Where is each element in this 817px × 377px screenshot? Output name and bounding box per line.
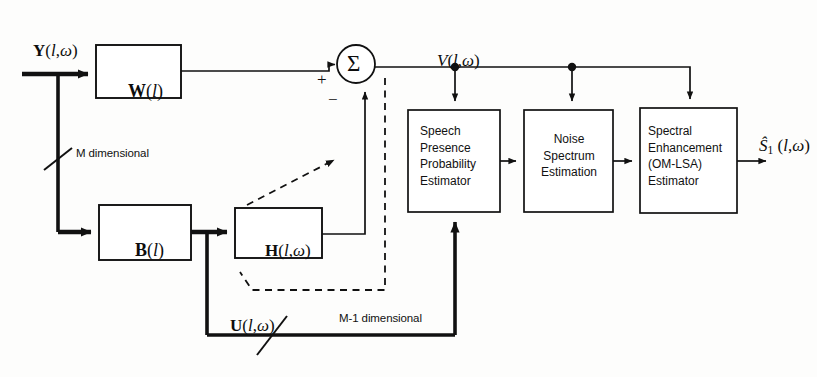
plus-sign-label: + — [317, 70, 327, 90]
path-dashed-h-to-sum-control — [247, 160, 334, 205]
path-w-to-sum — [181, 65, 335, 72]
summation-symbol: Σ — [347, 51, 360, 77]
block-label-speech-presence-probability-estimator: SpeechPresenceProbabilityEstimator — [420, 123, 506, 189]
label-final-output-signal: Ŝ1 (l,ω) — [742, 116, 810, 177]
label-input-signal: Y(l,ω) — [16, 21, 78, 81]
label-blocking-matrix-output: U(l,ω) — [213, 296, 275, 356]
block-label-spectral-enhancement-estimator: SpectralEnhancement(OM-LSA)Estimator — [648, 123, 740, 189]
block-diagram-canvas: Y(l,ω) W(l) B(l) H(l,ω) Σ + − V(l,ω) U(l… — [0, 0, 817, 377]
block-label-w: W(l) — [110, 60, 163, 123]
label-m-dimensional: M dimensional — [76, 147, 149, 159]
junction-dot-noise-tap — [568, 63, 576, 71]
minus-sign-label: − — [328, 90, 338, 110]
block-label-b: B(l) — [117, 219, 164, 282]
block-label-h: H(l,ω) — [248, 221, 311, 281]
label-m-minus-1-dimensional: M-1 dimensional — [339, 312, 422, 324]
block-label-noise-spectrum-estimation: NoiseSpectrumEstimation — [527, 131, 611, 181]
label-beamformer-output: V(l,ω) — [420, 31, 480, 91]
